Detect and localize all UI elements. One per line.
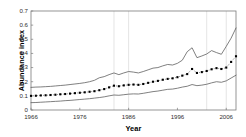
abundance-index-chart: 00.10.20.30.40.50.60.7 19661976198619962… [0, 0, 246, 137]
abundance-index-line [31, 56, 236, 96]
gridlines [114, 11, 226, 110]
data-point-markers [30, 55, 237, 97]
y-axis-title: Abundance index [17, 13, 26, 109]
plot-frame [31, 11, 236, 110]
plot-svg [0, 0, 246, 137]
confidence-bound-lines [31, 28, 236, 103]
x-axis-title: Year [31, 124, 236, 133]
